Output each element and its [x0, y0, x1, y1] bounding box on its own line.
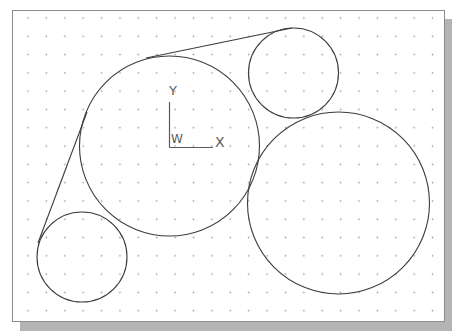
top-tangent-line[interactable]	[146, 28, 292, 58]
ucs-y-label: Y	[169, 84, 177, 97]
left-tangent-line[interactable]	[38, 112, 87, 243]
bottom-left-small-circle[interactable]	[37, 212, 127, 302]
top-right-small-circle[interactable]	[249, 28, 339, 118]
ucs-w-label: W	[171, 133, 183, 145]
right-large-circle[interactable]	[248, 112, 430, 294]
drawing-canvas[interactable]	[0, 0, 459, 336]
ucs-x-label: X	[215, 135, 225, 149]
